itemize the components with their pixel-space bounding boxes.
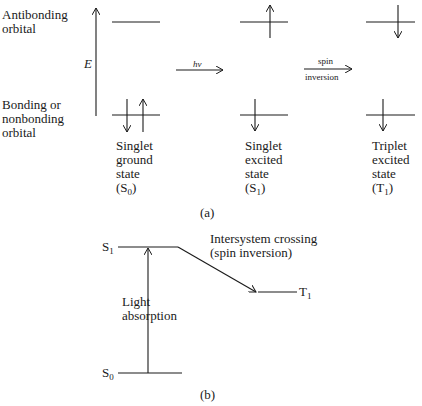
diagram-lines <box>0 0 422 406</box>
b-t1-label: T1 <box>299 285 311 299</box>
spin-label-top: spin <box>318 56 333 66</box>
b-s0-label: S0 <box>102 366 114 380</box>
antibonding-orbital-label: Antibonding orbital <box>2 8 68 36</box>
state-label-s0: Singlet ground state (S0) <box>116 139 153 195</box>
caption-b: (b) <box>200 388 215 402</box>
state-label-s1: Singlet excited state (S1) <box>245 139 283 195</box>
b-s1-label: S1 <box>102 240 114 254</box>
state-label-t1: Triplet excited state (T1) <box>372 139 410 195</box>
caption-a: (a) <box>200 206 214 220</box>
light-absorption-label: Light absorption <box>122 295 177 323</box>
intersystem-crossing-label: Intersystem crossing (spin inversion) <box>210 232 317 260</box>
spin-label-bottom: inversion <box>305 72 339 82</box>
bonding-orbital-label: Bonding or nonbonding orbital <box>2 98 64 140</box>
excitation-label: hν <box>193 59 202 69</box>
energy-axis-label: E <box>84 57 92 71</box>
